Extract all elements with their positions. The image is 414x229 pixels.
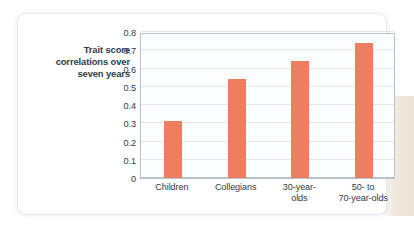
x-axis-tick-label: 50- to70-year-olds (321, 182, 405, 205)
x-axis-tick-label-line: 50- to (321, 182, 405, 193)
bar (228, 79, 246, 178)
y-axis-tick-label: 0.6 (110, 65, 136, 75)
bar (355, 43, 373, 178)
bar (164, 121, 182, 178)
plot-inner (141, 34, 394, 178)
x-axis-tick-labels: ChildrenCollegians30-year-olds50- to70-y… (140, 182, 395, 222)
y-axis-tick-labels: 0.80.70.60.50.40.30.20.10 (106, 33, 136, 179)
x-axis-tick-label-line: 70-year-olds (321, 193, 405, 204)
y-axis-tick-label: 0.8 (110, 28, 136, 38)
y-axis-tick-label: 0.2 (110, 138, 136, 148)
bar-chart: Trait score correlations over seven year… (0, 0, 414, 229)
y-axis-tick-label: 0.7 (110, 46, 136, 56)
bar (291, 61, 309, 178)
gridline (141, 31, 394, 32)
y-axis-tick-label: 0.3 (110, 119, 136, 129)
y-axis-tick-label: 0.4 (110, 101, 136, 111)
y-axis-tick-label: 0.5 (110, 83, 136, 93)
y-axis-tick-label: 0.1 (110, 156, 136, 166)
plot-area (140, 33, 395, 179)
